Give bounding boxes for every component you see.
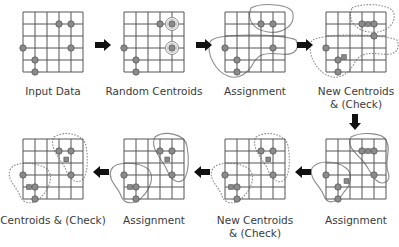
data-point-icon bbox=[68, 45, 74, 51]
centroid-square-icon bbox=[229, 185, 234, 190]
data-point-icon bbox=[32, 196, 38, 202]
panel-new-centroids-1 bbox=[310, 5, 398, 78]
data-point-icon bbox=[270, 45, 276, 51]
data-point-icon bbox=[157, 148, 163, 154]
panel-centroids-check bbox=[9, 134, 87, 203]
data-point-icon bbox=[32, 184, 38, 190]
data-point-icon bbox=[169, 148, 175, 154]
data-point-icon bbox=[258, 148, 264, 154]
data-point-icon bbox=[335, 57, 341, 63]
data-point-icon bbox=[371, 33, 377, 39]
data-point-icon bbox=[56, 148, 62, 154]
data-point-icon bbox=[121, 45, 127, 51]
panel-assignment-2 bbox=[311, 134, 389, 203]
data-point-icon bbox=[234, 57, 240, 63]
data-point-icon bbox=[169, 21, 175, 27]
data-point-icon bbox=[121, 172, 127, 178]
data-point-icon bbox=[157, 21, 163, 27]
data-point-icon bbox=[335, 196, 341, 202]
panel-label: & (Check) bbox=[229, 227, 281, 240]
data-point-icon bbox=[371, 21, 377, 27]
data-point-icon bbox=[335, 69, 341, 75]
panel-label: Assignment bbox=[123, 214, 185, 227]
data-point-icon bbox=[335, 184, 341, 190]
centroid-square-icon bbox=[266, 157, 271, 162]
data-point-icon bbox=[234, 184, 240, 190]
centroid-square-icon bbox=[64, 157, 69, 162]
data-point-icon bbox=[133, 57, 139, 63]
panel-label: & (Check) bbox=[330, 98, 382, 111]
data-point-icon bbox=[169, 45, 175, 51]
panel-label: Random Centroids bbox=[106, 85, 203, 98]
centroid-square-icon bbox=[27, 185, 32, 190]
data-point-icon bbox=[359, 148, 365, 154]
panel-label: New Centroids bbox=[318, 85, 394, 98]
data-point-icon bbox=[32, 69, 38, 75]
centroid-square-icon bbox=[342, 55, 347, 60]
grid bbox=[326, 139, 386, 199]
data-point-icon bbox=[133, 69, 139, 75]
grid bbox=[225, 12, 285, 72]
data-point-icon bbox=[323, 172, 329, 178]
data-point-icon bbox=[56, 21, 62, 27]
data-point-icon bbox=[270, 172, 276, 178]
cluster-outline bbox=[211, 163, 252, 203]
data-point-icon bbox=[359, 21, 365, 27]
arrow-right-icon bbox=[95, 39, 111, 51]
cluster-outline bbox=[351, 5, 395, 33]
data-point-icon bbox=[258, 21, 264, 27]
centroid-square-icon bbox=[128, 185, 133, 190]
cluster-outline bbox=[9, 163, 50, 203]
data-point-icon bbox=[133, 196, 139, 202]
arrow-right-icon bbox=[196, 39, 212, 51]
arrow-left-icon bbox=[295, 166, 311, 178]
data-point-icon bbox=[169, 172, 175, 178]
centroid-square-icon bbox=[165, 157, 170, 162]
panel-input-data bbox=[20, 12, 83, 75]
data-point-icon bbox=[222, 45, 228, 51]
arrow-down-icon bbox=[349, 114, 361, 130]
data-point-icon bbox=[68, 148, 74, 154]
diagram-canvas bbox=[0, 0, 399, 247]
data-point-icon bbox=[234, 69, 240, 75]
data-point-icon bbox=[323, 45, 329, 51]
panel-label: Input Data bbox=[25, 85, 81, 98]
panel-new-centroids-2 bbox=[211, 134, 289, 203]
kmeans-diagram: Input DataRandom CentroidsAssignmentNew … bbox=[0, 0, 399, 247]
panel-label: Assignment bbox=[325, 214, 387, 227]
centroid-square-icon bbox=[344, 179, 349, 184]
cluster-outline bbox=[209, 35, 297, 77]
arrow-left-icon bbox=[93, 166, 109, 178]
centroid-square-icon bbox=[366, 149, 371, 154]
panel-assignment-1 bbox=[209, 5, 297, 78]
data-point-icon bbox=[133, 184, 139, 190]
data-point-icon bbox=[270, 148, 276, 154]
data-point-icon bbox=[68, 21, 74, 27]
data-point-icon bbox=[32, 57, 38, 63]
panel-label: Centroids & (Check) bbox=[0, 214, 105, 227]
panel-label: Assignment bbox=[224, 85, 286, 98]
panel-random-centroids bbox=[121, 12, 184, 75]
panel-label: New Centroids bbox=[217, 214, 293, 227]
data-point-icon bbox=[270, 21, 276, 27]
grid bbox=[23, 12, 83, 72]
data-point-icon bbox=[234, 196, 240, 202]
panel-assignment-3 bbox=[110, 134, 188, 203]
data-point-icon bbox=[371, 172, 377, 178]
data-point-icon bbox=[68, 172, 74, 178]
grid bbox=[326, 12, 386, 72]
centroid-square-icon bbox=[366, 22, 371, 27]
arrow-left-icon bbox=[194, 166, 210, 178]
cluster-outline bbox=[250, 5, 294, 33]
cluster-outline bbox=[110, 163, 151, 203]
data-point-icon bbox=[20, 172, 26, 178]
data-point-icon bbox=[371, 148, 377, 154]
data-point-icon bbox=[222, 172, 228, 178]
data-point-icon bbox=[20, 45, 26, 51]
cluster-outline bbox=[310, 35, 398, 77]
